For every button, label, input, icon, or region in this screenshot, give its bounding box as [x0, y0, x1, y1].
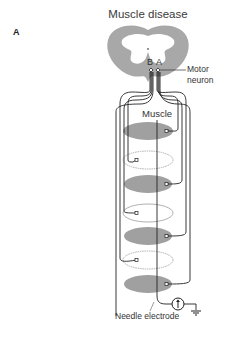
panel-label: A: [13, 27, 20, 37]
neuron-a-label: A: [156, 57, 162, 67]
muscle-fibers: [123, 122, 173, 293]
muscle-label: Muscle: [142, 108, 172, 119]
amplifier-icon: [172, 298, 196, 310]
motor-neuron-text: Motor neuron: [187, 64, 213, 85]
motor-neuron-label: Motor neuron: [187, 64, 223, 85]
diagram-canvas: [0, 0, 230, 341]
ground-icon: [191, 311, 201, 315]
fiber-diseased: [123, 251, 173, 269]
fiber-diseased: [123, 151, 173, 169]
spinal-cord-cross-section: [107, 25, 188, 82]
neuron-b-label: B: [147, 57, 153, 67]
needle-electrode-label: Needle electrode: [115, 311, 179, 321]
figure-title: Muscle disease: [0, 8, 230, 20]
